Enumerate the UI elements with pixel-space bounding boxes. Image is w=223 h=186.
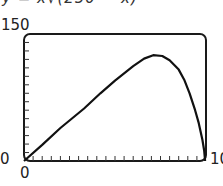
plot-frame (24, 34, 206, 161)
data-curve (24, 55, 205, 161)
chart-plot-area (0, 0, 223, 186)
